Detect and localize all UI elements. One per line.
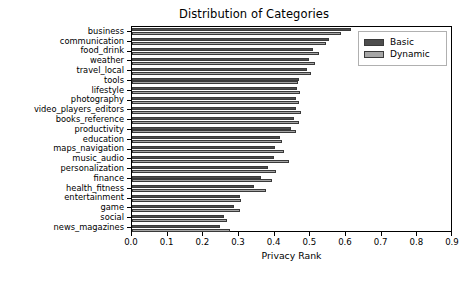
- bar-dynamic: [132, 91, 300, 94]
- x-tick-label: 0.1: [152, 237, 182, 247]
- chart-legend: Basic Dynamic: [358, 31, 447, 66]
- x-tick-label: 0.7: [366, 237, 396, 247]
- y-tick-mark: [127, 70, 131, 71]
- bar-basic: [132, 205, 234, 208]
- y-tick-mark: [127, 207, 131, 208]
- bar-dynamic: [132, 209, 240, 212]
- y-tick-mark: [127, 198, 131, 199]
- y-tick-mark: [127, 51, 131, 52]
- y-tick-label: maps_navigation: [0, 144, 127, 152]
- chart-title: Distribution of Categories: [0, 7, 472, 21]
- bar-basic: [132, 97, 296, 100]
- y-tick-label: photography: [0, 95, 127, 103]
- bar-dynamic: [132, 140, 282, 143]
- bar-dynamic: [132, 72, 311, 75]
- y-tick-label: books_reference: [0, 115, 127, 123]
- bar-basic: [132, 127, 291, 130]
- bar-dynamic: [132, 111, 301, 114]
- y-tick-label: education: [0, 135, 127, 143]
- bar-basic: [132, 195, 240, 198]
- y-tick-label: video_players_editors: [0, 105, 127, 113]
- y-tick-mark: [127, 158, 131, 159]
- bar-basic: [132, 166, 268, 169]
- y-tick-label: health_fitness: [0, 184, 127, 192]
- bar-dynamic: [132, 219, 227, 222]
- bar-dynamic: [132, 170, 276, 173]
- y-tick-mark: [127, 178, 131, 179]
- y-tick-label: entertainment: [0, 193, 127, 201]
- legend-swatch-basic-icon: [364, 39, 384, 46]
- y-tick-label: tools: [0, 76, 127, 84]
- y-tick-mark: [127, 90, 131, 91]
- y-tick-mark: [127, 168, 131, 169]
- bar-basic: [132, 38, 329, 41]
- bar-dynamic: [132, 130, 296, 133]
- y-tick-mark: [127, 217, 131, 218]
- y-tick-label: social: [0, 213, 127, 221]
- y-tick-label: personalization: [0, 164, 127, 172]
- y-tick-label: business: [0, 27, 127, 35]
- x-tick-label: 0.0: [116, 237, 146, 247]
- x-tick-label: 0.3: [223, 237, 253, 247]
- bar-basic: [132, 146, 275, 149]
- x-tick-mark: [345, 232, 346, 236]
- x-tick-mark: [167, 232, 168, 236]
- bar-dynamic: [132, 150, 284, 153]
- x-tick-mark: [274, 232, 275, 236]
- y-tick-label: communication: [0, 37, 127, 45]
- bar-basic: [132, 28, 351, 31]
- bar-basic: [132, 176, 261, 179]
- bar-basic: [132, 107, 296, 110]
- bar-basic: [132, 68, 307, 71]
- bar-dynamic: [132, 101, 299, 104]
- legend-item-basic: Basic: [364, 36, 441, 48]
- x-tick-mark: [416, 232, 417, 236]
- bar-basic: [132, 78, 299, 81]
- y-tick-label: news_magazines: [0, 223, 127, 231]
- y-tick-mark: [127, 60, 131, 61]
- y-axis-labels: businesscommunicationfood_drinkweathertr…: [0, 26, 127, 232]
- bar-basic: [132, 185, 254, 188]
- legend-item-dynamic: Dynamic: [364, 48, 441, 60]
- bar-basic: [132, 215, 224, 218]
- y-tick-label: finance: [0, 174, 127, 182]
- bar-dynamic: [132, 52, 319, 55]
- x-tick-mark: [238, 232, 239, 236]
- legend-label-basic: Basic: [390, 37, 414, 47]
- bar-dynamic: [132, 42, 326, 45]
- x-axis-title: Privacy Rank: [131, 250, 452, 261]
- y-tick-mark: [127, 139, 131, 140]
- bar-basic: [132, 58, 309, 61]
- legend-swatch-dynamic-icon: [364, 51, 384, 58]
- y-tick-label: food_drink: [0, 46, 127, 54]
- y-tick-mark: [127, 100, 131, 101]
- x-tick-label: 0.8: [401, 237, 431, 247]
- x-tick-mark: [451, 232, 452, 236]
- bar-basic: [132, 136, 280, 139]
- bar-dynamic: [132, 179, 272, 182]
- y-tick-label: weather: [0, 56, 127, 64]
- bar-basic: [132, 225, 220, 228]
- x-tick-mark: [381, 232, 382, 236]
- x-tick-label: 0.2: [187, 237, 217, 247]
- bar-basic: [132, 87, 297, 90]
- y-tick-mark: [127, 227, 131, 228]
- bar-basic: [132, 48, 313, 51]
- x-tick-label: 0.5: [294, 237, 324, 247]
- y-tick-label: travel_local: [0, 66, 127, 74]
- x-tick-mark: [309, 232, 310, 236]
- bar-dynamic: [132, 189, 266, 192]
- y-tick-mark: [127, 149, 131, 150]
- y-tick-label: game: [0, 203, 127, 211]
- y-tick-label: music_audio: [0, 154, 127, 162]
- bar-basic: [132, 117, 294, 120]
- y-tick-mark: [127, 188, 131, 189]
- x-tick-label: 0.4: [259, 237, 289, 247]
- bar-dynamic: [132, 160, 289, 163]
- y-tick-mark: [127, 109, 131, 110]
- bar-basic: [132, 156, 274, 159]
- y-tick-label: productivity: [0, 125, 127, 133]
- bar-dynamic: [132, 199, 241, 202]
- bar-dynamic: [132, 32, 341, 35]
- x-tick-label: 0.6: [330, 237, 360, 247]
